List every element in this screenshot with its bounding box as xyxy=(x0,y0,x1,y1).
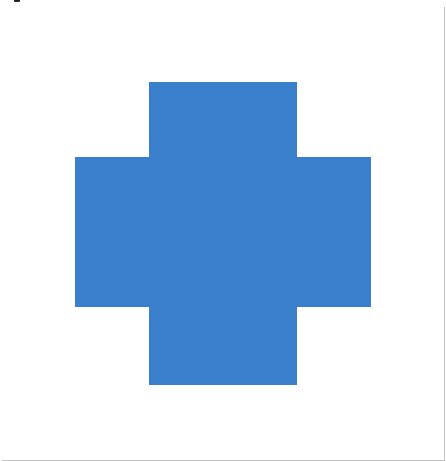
grid-cell-empty xyxy=(371,232,445,308)
grid-cell-empty xyxy=(371,385,445,461)
grid-cell-filled xyxy=(223,157,298,233)
grid-cell-filled xyxy=(149,232,224,308)
grid-cell-empty xyxy=(371,7,445,83)
caption-glyph-fragment xyxy=(14,0,20,2)
grid-cell-empty xyxy=(2,7,76,83)
grid-cell-empty xyxy=(2,385,76,461)
grid-cell-filled xyxy=(75,157,150,233)
grid-cell-empty xyxy=(75,82,150,158)
grid-cell-filled xyxy=(149,157,224,233)
grid-cell-empty xyxy=(223,7,298,83)
grid-cell-empty xyxy=(223,385,298,461)
grid-cell-filled xyxy=(149,307,224,386)
grid-cell-empty xyxy=(149,7,224,83)
grid-cell-empty xyxy=(2,307,76,386)
grid-cell-filled xyxy=(223,232,298,308)
grid-cell-filled xyxy=(149,82,224,158)
grid-cell-empty xyxy=(371,157,445,233)
cut-off-caption xyxy=(0,0,446,7)
grid-cell-filled xyxy=(75,232,150,308)
grid-cell-empty xyxy=(2,232,76,308)
grid-cell-empty xyxy=(297,307,372,386)
grid-cell-empty xyxy=(75,7,150,83)
grid-cell-filled xyxy=(223,307,298,386)
grid-cell-empty xyxy=(371,82,445,158)
grid-cell-empty xyxy=(75,307,150,386)
grid-cell-empty xyxy=(2,82,76,158)
grid-cell-empty xyxy=(2,157,76,233)
grid-cell-empty xyxy=(297,82,372,158)
grid-cell-empty xyxy=(371,307,445,386)
grid-cell-empty xyxy=(297,7,372,83)
grid-cell-filled xyxy=(223,82,298,158)
grid-cell-empty xyxy=(149,385,224,461)
grid-cell-filled xyxy=(297,232,372,308)
grid-cell-empty xyxy=(75,385,150,461)
grid-cell-filled xyxy=(297,157,372,233)
grid-cell-empty xyxy=(297,385,372,461)
